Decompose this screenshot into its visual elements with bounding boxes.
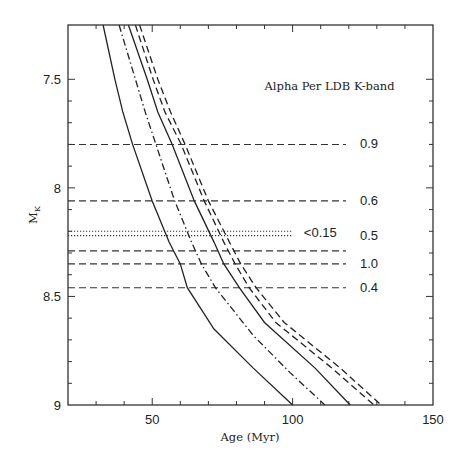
x-tick-label: 50 [145, 412, 159, 427]
y-tick-label: 9 [54, 398, 61, 413]
chart: 0.90.6<0.150.51.00.4501001507.588.59 Alp… [0, 0, 466, 459]
y-tick-label: 8.5 [43, 289, 61, 304]
isochrone-plot: 0.90.6<0.150.51.00.4501001507.588.59 Alp… [0, 0, 466, 459]
axis-tick-labels: 0.90.6<0.150.51.00.4501001507.588.59 [43, 72, 444, 427]
horizontal-reference-lines [68, 144, 346, 287]
y-axis-label-main: M [26, 212, 40, 224]
x-axis-label: Age (Myr) [220, 430, 280, 444]
hline-label: 0.6 [360, 193, 378, 208]
hline-label: <0.15 [304, 225, 337, 240]
hline-label: 0.4 [360, 280, 378, 295]
chart-annotation-title: Alpha Per LDB K-band [264, 79, 396, 93]
y-tick-label: 8 [54, 181, 61, 196]
y-axis-label-sub: K [33, 205, 42, 212]
hline-label: 0.5 [360, 228, 378, 243]
x-tick-label: 100 [282, 412, 304, 427]
y-tick-label: 7.5 [43, 72, 61, 87]
svg-text:MK: MK [26, 205, 42, 224]
hline-label: 1.0 [360, 256, 378, 271]
y-axis-label: MK [26, 205, 42, 224]
hline-label: 0.9 [360, 136, 378, 151]
x-tick-label: 150 [422, 412, 444, 427]
